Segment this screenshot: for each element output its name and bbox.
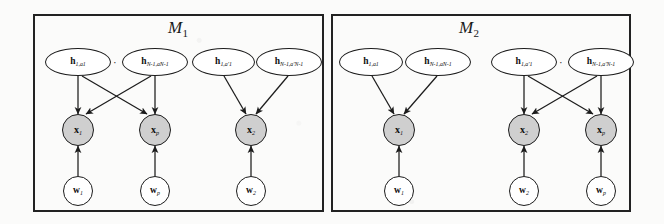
- node-x-m1a-1: x1: [62, 114, 94, 146]
- node-x-m2b-p-sub: p: [602, 129, 605, 136]
- panel-title-m1-letter: M: [168, 18, 182, 37]
- node-h-m1b-N-sub: N-1,a'N-1: [280, 61, 303, 67]
- node-w-m1b-2: w2: [236, 176, 266, 206]
- node-w-m2b-2-sub: 2: [526, 190, 529, 196]
- node-w-m1a-p-sub: p: [157, 190, 160, 196]
- node-w-m2b-2: w2: [509, 176, 539, 206]
- node-x-m2b-2-sub: 2: [525, 129, 528, 136]
- node-x-m1a-p-sub: p: [156, 129, 159, 136]
- node-w-m1a-1-sub: 1: [80, 190, 83, 196]
- node-h-m2a-1-sub: 1,a1: [369, 61, 379, 67]
- node-w-m2b-p: wp: [586, 176, 616, 206]
- node-x-m1a-1-sub: 1: [79, 129, 82, 136]
- panel-title-m1-subscript: 1: [182, 27, 188, 39]
- panel-title-m2: M2: [459, 18, 479, 39]
- figure-root: M1 h1,a1 · · · hN-1,aN-1 x1 xp w1 wp h1,…: [0, 0, 664, 224]
- node-x-m1b-2: x2: [235, 114, 267, 146]
- node-h-m2b-1-sub: 1,a'1: [521, 61, 533, 67]
- node-h-m2a-1: h1,a1: [339, 48, 403, 76]
- node-w-m1b-2-sub: 2: [253, 190, 256, 196]
- node-x-m2b-p: xp: [585, 114, 617, 146]
- node-w-m1a-p: wp: [140, 176, 170, 206]
- node-h-m1a-1: h1,a1: [45, 48, 111, 76]
- panel-title-m1: M1: [168, 18, 188, 39]
- node-x-m2a-1-sub: 1: [400, 129, 403, 136]
- panel-title-m2-subscript: 2: [473, 27, 479, 39]
- node-w-m2a-1-sub: 1: [401, 190, 404, 196]
- node-h-m1a-1-sub: 1,a1: [76, 61, 86, 67]
- node-w-m2b-p-sub: p: [603, 190, 606, 196]
- node-x-m1b-2-sub: 2: [252, 129, 255, 136]
- node-x-m2b-2: x2: [508, 114, 540, 146]
- node-h-m2a-N-sub: N-1,aN-1: [430, 61, 452, 67]
- node-h-m1a-N-sub: N-1,aN-1: [147, 61, 169, 67]
- node-h-m1b-1: h1,a'1: [192, 48, 255, 76]
- node-x-m1a-p: xp: [139, 114, 171, 146]
- node-h-m2b-N-sub: N-1,a'N-1: [592, 61, 615, 67]
- node-w-m2a-1: w1: [384, 176, 414, 206]
- node-w-m1a-1: w1: [63, 176, 93, 206]
- node-h-m1b-1-sub: 1,a'1: [220, 61, 232, 67]
- panel-model-2: [331, 14, 631, 212]
- node-h-m2b-1: h1,a'1: [491, 48, 557, 76]
- node-h-m1a-N: hN-1,aN-1: [122, 48, 188, 76]
- node-h-m1b-N: hN-1,a'N-1: [256, 48, 322, 76]
- node-h-m2a-N: hN-1,aN-1: [405, 48, 471, 76]
- node-h-m2b-N: hN-1,a'N-1: [568, 48, 634, 76]
- panel-title-m2-letter: M: [459, 18, 473, 37]
- node-x-m2a-1: x1: [383, 114, 415, 146]
